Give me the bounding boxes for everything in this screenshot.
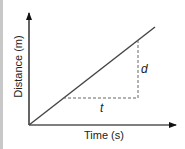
t-label: t: [100, 102, 103, 114]
d-label: d: [141, 63, 148, 75]
distance-time-line: [29, 27, 155, 125]
y-axis-label: Distance (m): [13, 35, 24, 99]
x-axis-label: Time (s): [84, 130, 124, 141]
distance-time-graph: [0, 0, 185, 149]
